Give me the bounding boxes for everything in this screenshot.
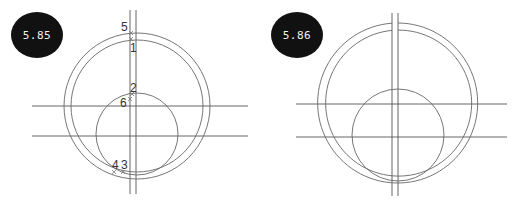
inner-circle bbox=[326, 30, 472, 176]
figure-5-86: 5.86 bbox=[256, 0, 513, 206]
point-label-2: 2 bbox=[130, 81, 137, 95]
point-label-4: 4 bbox=[112, 158, 119, 172]
small-circle bbox=[96, 93, 178, 175]
point-label-1: 1 bbox=[130, 41, 137, 55]
point-label-5: 5 bbox=[121, 20, 128, 34]
figure-5-85: 5.85 5 1 2 6 4 3 bbox=[0, 0, 256, 206]
construction-drawing bbox=[256, 0, 513, 206]
construction-drawing: 5 1 2 6 4 3 bbox=[0, 0, 256, 206]
point-label-3: 3 bbox=[121, 158, 128, 172]
point-label-6: 6 bbox=[120, 96, 127, 110]
